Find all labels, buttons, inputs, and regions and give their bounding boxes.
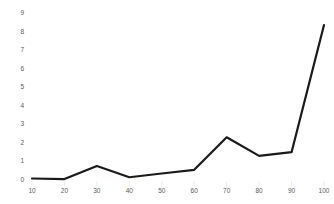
x-axis-tick-90: 90 (288, 188, 295, 195)
x-axis-tick-70: 70 (223, 188, 230, 195)
x-axis-tick-10: 10 (28, 188, 35, 195)
chart-plot-area (0, 0, 334, 204)
y-axis-tick-7: 7 (6, 47, 24, 54)
x-axis-tick-50: 50 (158, 188, 165, 195)
y-axis-tick-2: 2 (6, 140, 24, 147)
x-axis-tick-100: 100 (319, 188, 330, 195)
y-axis-tick-5: 5 (6, 84, 24, 91)
y-axis-tick-0: 0 (6, 177, 24, 184)
data-series-line (32, 25, 324, 179)
x-axis-tick-30: 30 (93, 188, 100, 195)
x-axis-tick-20: 20 (61, 188, 68, 195)
line-chart: 0123456789 102030405060708090100 (0, 0, 334, 204)
y-axis-tick-4: 4 (6, 103, 24, 110)
y-axis-tick-6: 6 (6, 65, 24, 72)
x-axis-tick-40: 40 (126, 188, 133, 195)
y-axis-tick-1: 1 (6, 158, 24, 165)
y-axis-tick-9: 9 (6, 10, 24, 17)
x-axis-tick-60: 60 (191, 188, 198, 195)
axis-group (32, 181, 324, 186)
y-axis-tick-8: 8 (6, 28, 24, 35)
y-axis-tick-3: 3 (6, 121, 24, 128)
x-axis-tick-80: 80 (255, 188, 262, 195)
